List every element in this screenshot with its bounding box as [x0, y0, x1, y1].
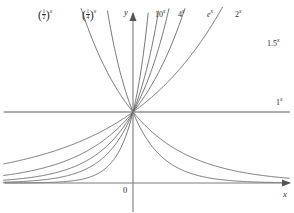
curve-label-two: 2x [235, 9, 241, 19]
y-axis-arrow [130, 12, 137, 21]
curve-label-onepointfive: 1.5x [267, 38, 279, 48]
curve-12x [81, 8, 290, 178]
curve-label-ten: 10x [155, 9, 165, 19]
curve-14x [107, 11, 289, 183]
exponential-functions-figure: (12)x (14)x 10x 4x ex 2x 1.5x 1x y x 0 [0, 0, 294, 213]
curves-group [3, 7, 289, 183]
plot-canvas [0, 0, 294, 213]
origin-label: 0 [123, 186, 127, 195]
curve-label-quarter: (14)x [82, 9, 96, 21]
curve-10x [3, 13, 148, 183]
curve-ex [3, 8, 169, 180]
x-axis-arrow [282, 180, 291, 187]
x-axis-label: x [283, 190, 287, 199]
curve-label-half: (12)x [38, 9, 52, 21]
y-axis-label: y [124, 8, 128, 17]
curve-label-euler: ex [207, 9, 213, 19]
curve-label-four: 4x [178, 9, 184, 19]
curve-4x [3, 11, 158, 183]
curve-label-one: 1x [276, 97, 282, 107]
